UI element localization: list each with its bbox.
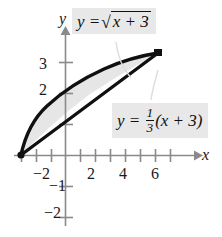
- equation-linear-lhs: y =: [117, 111, 140, 130]
- y-axis-label: y: [59, 11, 66, 27]
- fraction-denominator: 3: [146, 121, 155, 135]
- x-tick-label-4: 4: [119, 166, 127, 182]
- equation-label-sqrt: y =√x + 3: [72, 8, 156, 34]
- radical-sign-icon: √: [101, 14, 111, 31]
- y-tick-label-minus-1: −1: [49, 178, 66, 194]
- x-tick-label-6: 6: [151, 166, 159, 182]
- fraction-numerator: 1: [146, 106, 155, 121]
- y-tick-label-3: 3: [39, 56, 47, 72]
- x-tick-label-minus-2: −2: [33, 166, 50, 182]
- equation-linear-rhs: (x + 3): [155, 111, 202, 130]
- x-tick-label-2: 2: [87, 166, 95, 182]
- y-tick-label-2: 2: [39, 82, 47, 98]
- equation-sqrt-lhs: y =: [77, 12, 100, 31]
- radicand: x + 3: [111, 11, 151, 30]
- x-axis-label: x: [202, 147, 209, 163]
- point-left-intersection: [17, 151, 24, 158]
- y-axis-arrowhead: [61, 26, 71, 35]
- fraction-one-third: 1 3: [146, 106, 155, 134]
- radical-group: √x + 3: [100, 11, 151, 30]
- equation-label-linear: y = 1 3 (x + 3): [112, 103, 208, 138]
- point-right-intersection: [154, 49, 162, 56]
- y-tick-label-minus-2: −2: [44, 205, 61, 221]
- graph-figure: y =√x + 3 y = 1 3 (x + 3) y x 3 2 −1 −2 …: [0, 0, 222, 237]
